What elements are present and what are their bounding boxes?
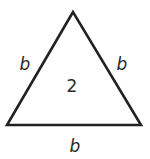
left-side-label: b xyxy=(20,54,31,74)
bottom-side-label: b xyxy=(70,136,81,156)
center-label: 2 xyxy=(67,76,78,96)
triangle-diagram: b b 2 b xyxy=(0,0,150,159)
right-side-label: b xyxy=(117,54,128,74)
